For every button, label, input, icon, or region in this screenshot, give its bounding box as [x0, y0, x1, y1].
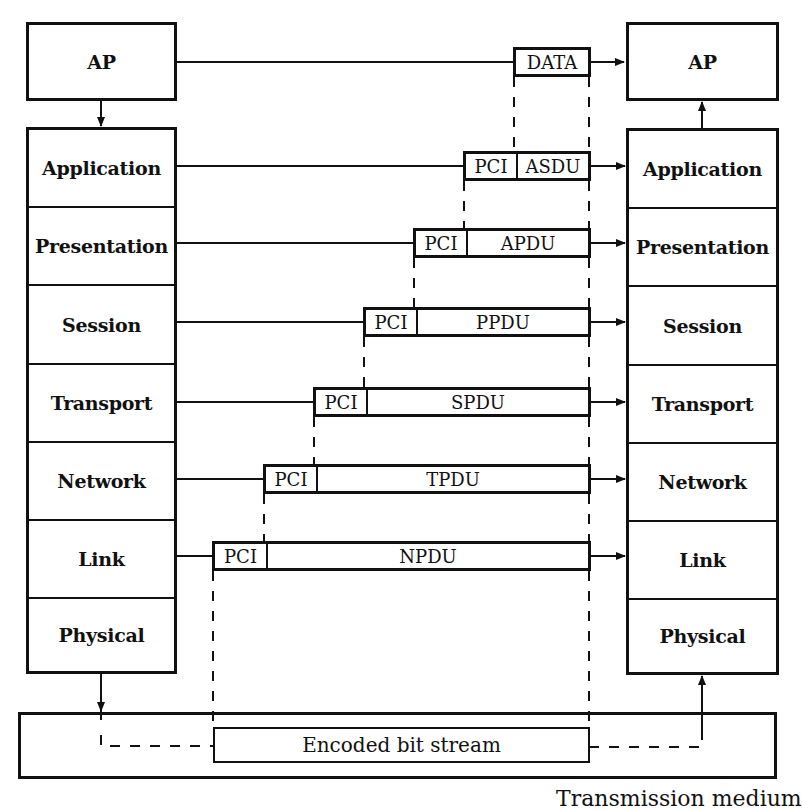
pdu-payload: SPDU [368, 390, 588, 414]
left-layer-session: Session [29, 286, 174, 365]
right-layer-session: Session [629, 287, 776, 366]
pdu-transport: PCI SPDU [313, 387, 591, 417]
pdu-link: PCI NPDU [212, 541, 591, 571]
layer-label: Application [42, 157, 161, 179]
pdu-network: PCI TPDU [263, 464, 591, 494]
layer-label: Application [643, 158, 762, 180]
layer-label: Presentation [636, 236, 769, 258]
left-layer-link: Link [29, 521, 174, 599]
left-layer-stack: Application Presentation Session Transpo… [26, 127, 177, 674]
layer-label: Presentation [35, 235, 168, 257]
layer-label: Link [679, 549, 725, 571]
layer-label: Session [62, 314, 141, 336]
layer-label: Physical [59, 624, 145, 646]
pdu-session: PCI PPDU [363, 307, 591, 337]
layer-label: Physical [660, 625, 746, 647]
transmission-medium-label: Transmission medium [556, 786, 802, 810]
data-unit-box: DATA [513, 47, 591, 77]
left-layer-application: Application [29, 130, 174, 208]
pdu-payload: PPDU [418, 310, 588, 334]
right-layer-transport: Transport [629, 366, 776, 444]
layer-label: Transport [652, 393, 754, 415]
layer-label: Network [658, 471, 746, 493]
right-layer-link: Link [629, 522, 776, 600]
pdu-application: PCI ASDU [463, 151, 591, 181]
pdu-payload: TPDU [318, 467, 588, 491]
right-ap-box: AP [626, 22, 779, 101]
right-layer-stack: Application Presentation Session Transpo… [626, 128, 779, 675]
encoded-bit-stream-label: Encoded bit stream [302, 733, 501, 757]
pci-header: PCI [416, 231, 468, 255]
pci-header: PCI [466, 154, 518, 178]
left-layer-transport: Transport [29, 365, 174, 443]
left-ap-label: AP [87, 51, 115, 73]
layer-label: Link [78, 548, 124, 570]
pci-header: PCI [366, 310, 418, 334]
right-layer-presentation: Presentation [629, 209, 776, 287]
pdu-payload: NPDU [268, 544, 588, 568]
left-layer-presentation: Presentation [29, 208, 174, 286]
pdu-payload: APDU [468, 231, 588, 255]
data-unit-label: DATA [516, 50, 588, 74]
pci-header: PCI [316, 390, 368, 414]
left-layer-physical: Physical [29, 599, 174, 671]
right-layer-physical: Physical [629, 600, 776, 672]
layer-label: Network [57, 470, 145, 492]
layer-label: Session [663, 315, 742, 337]
left-ap-box: AP [26, 22, 177, 101]
pdu-presentation: PCI APDU [413, 228, 591, 258]
pci-header: PCI [266, 467, 318, 491]
pci-header: PCI [215, 544, 268, 568]
right-layer-network: Network [629, 444, 776, 522]
layer-label: Transport [51, 392, 153, 414]
right-ap-label: AP [688, 51, 716, 73]
left-layer-network: Network [29, 443, 174, 521]
encoded-bit-stream-box: Encoded bit stream [213, 727, 590, 763]
pdu-payload: ASDU [518, 154, 588, 178]
right-layer-application: Application [629, 131, 776, 209]
